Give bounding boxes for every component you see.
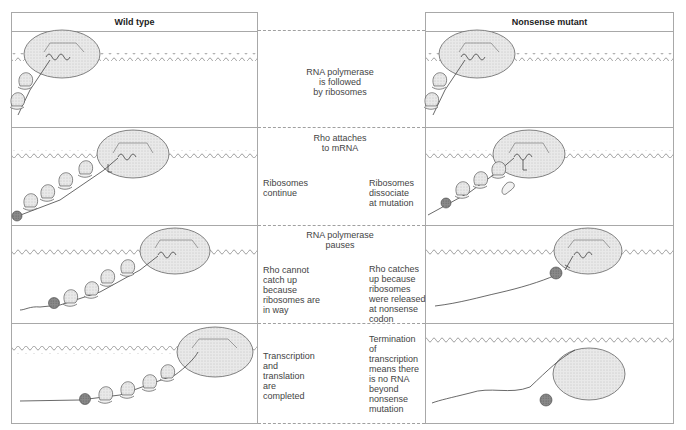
row-4-mutant bbox=[426, 336, 673, 406]
row-4-wild bbox=[12, 327, 257, 405]
row-3-mutant bbox=[426, 228, 673, 306]
ribosome-icon bbox=[18, 73, 33, 90]
rho-factor-icon bbox=[540, 394, 552, 406]
row-2-wild bbox=[12, 130, 257, 221]
row-1-mutant bbox=[424, 30, 673, 115]
row-2-mutant bbox=[426, 130, 673, 215]
diagram-illustrations bbox=[0, 0, 686, 430]
released-ribosome-icon bbox=[502, 182, 514, 194]
row-3-wild bbox=[12, 228, 257, 310]
ribosome-icon bbox=[10, 93, 25, 110]
rho-factor-icon bbox=[12, 211, 22, 221]
row-1-wild bbox=[10, 30, 257, 115]
